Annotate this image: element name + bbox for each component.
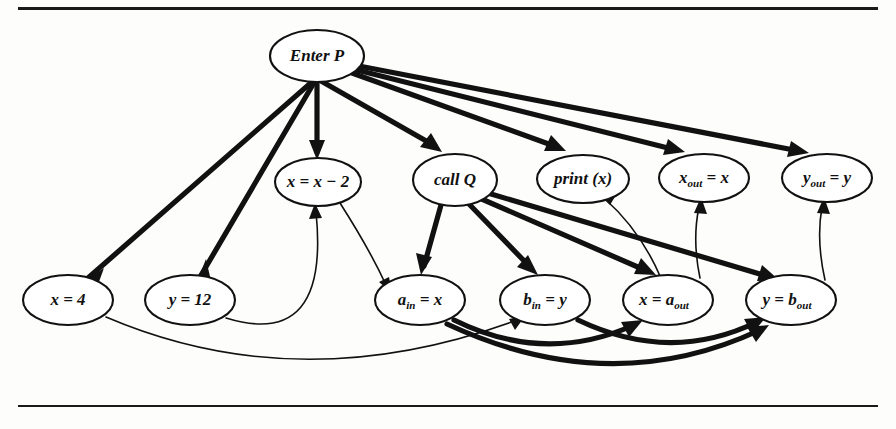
svg-text:bin = y: bin = y [523, 290, 567, 311]
edge-xdec-to-ain [340, 203, 392, 293]
edge-enterp-to-xdec [309, 82, 325, 160]
node-label-x-out-tail: = x [702, 168, 729, 187]
svg-text:x = x − 2: x = x − 2 [286, 172, 350, 191]
node-x-aout[interactable]: x = aout [623, 275, 713, 325]
node-enter-p[interactable]: Enter P [270, 30, 364, 82]
node-x-out[interactable]: xout = x [659, 154, 749, 202]
node-y-bout[interactable]: y = bout [746, 275, 836, 325]
node-label-x-out-base: x [678, 168, 688, 187]
dependence-graph: Enter P x = x − 2 call Q print (x) [0, 0, 896, 429]
node-label-b-in-base: b [523, 290, 532, 309]
node-label-enter-p: Enter P [289, 46, 345, 65]
svg-text:xout = x: xout = x [678, 168, 729, 189]
figure-page: Enter P x = x − 2 call Q print (x) [0, 0, 896, 429]
node-label-y-out-tail: = y [825, 168, 851, 187]
node-label-y-bout-sub: out [797, 299, 813, 311]
node-a-in[interactable]: ain = x [375, 275, 465, 325]
node-label-y-12: y = 12 [167, 290, 212, 309]
node-label-x-4: x = 4 [49, 290, 85, 309]
svg-text:Enter P: Enter P [289, 46, 345, 65]
node-x-4[interactable]: x = 4 [23, 275, 113, 325]
edge-xaout-to-xout [694, 197, 707, 278]
node-group: Enter P x = x − 2 call Q print (x) [23, 30, 872, 325]
edge-ybout-to-yout [817, 197, 830, 280]
node-label-b-in-sub: in [532, 299, 541, 311]
node-label-x-dec: x = x − 2 [286, 172, 350, 191]
node-label-print-x: print (x) [552, 169, 612, 188]
node-print-x[interactable]: print (x) [537, 155, 629, 203]
node-label-y-bout-base: y = b [761, 290, 797, 309]
node-y-12[interactable]: y = 12 [145, 275, 235, 325]
svg-text:ain = x: ain = x [398, 290, 443, 311]
node-label-y-out-sub: out [811, 177, 827, 189]
node-label-y-out-base: y [801, 168, 811, 187]
svg-text:y = 12: y = 12 [167, 290, 212, 309]
svg-text:print (x): print (x) [552, 169, 612, 188]
node-label-call-q: call Q [434, 170, 476, 189]
node-y-out[interactable]: yout = y [782, 154, 872, 202]
node-label-x-aout-sub: out [674, 299, 690, 311]
edge-callq-to-ain [416, 205, 441, 275]
node-label-b-in-tail: = y [541, 290, 567, 309]
svg-text:yout = y: yout = y [801, 168, 851, 189]
edge-y12-to-xdec [226, 203, 322, 324]
edge-callq-to-bin [468, 203, 538, 275]
node-x-dec[interactable]: x = x − 2 [275, 158, 361, 206]
node-b-in[interactable]: bin = y [500, 275, 590, 325]
node-label-x-aout-base: x = a [638, 290, 675, 309]
edge-enterp-to-callq [321, 81, 442, 152]
node-label-a-in-sub: in [406, 299, 415, 311]
svg-text:x = 4: x = 4 [49, 290, 85, 309]
node-label-x-out-sub: out [688, 177, 704, 189]
edge-enterp-to-xout [357, 70, 685, 155]
node-call-q[interactable]: call Q [413, 154, 497, 206]
node-label-a-in-tail: = x [416, 290, 443, 309]
svg-text:call Q: call Q [434, 170, 476, 189]
